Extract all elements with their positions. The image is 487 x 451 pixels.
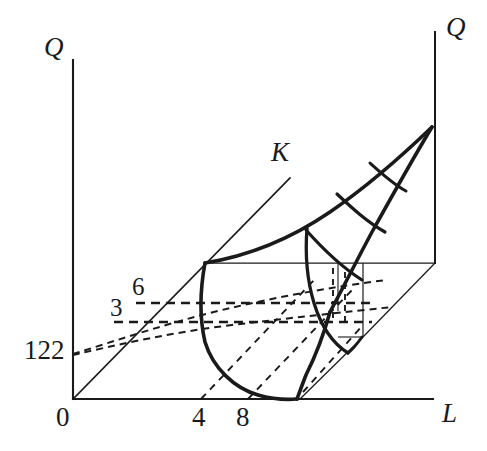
q-tick-label-3: 3 bbox=[110, 295, 123, 320]
reference-plane-group bbox=[205, 263, 435, 399]
l-axis-label: L bbox=[442, 400, 457, 427]
production-function-figure: Q Q K L 0 4 8 122 3 6 bbox=[0, 0, 487, 451]
k-axis bbox=[73, 178, 290, 399]
contour-arc-2 bbox=[337, 194, 385, 232]
contour-arc-1 bbox=[306, 230, 362, 280]
figure-canvas bbox=[0, 0, 487, 451]
l-tick-label-4: 4 bbox=[192, 404, 206, 431]
plane-right-edge bbox=[363, 263, 435, 337]
surface-lower-ridge bbox=[330, 127, 432, 312]
surface-left-boundary bbox=[201, 263, 297, 399]
origin-label: 0 bbox=[56, 404, 70, 431]
q-tick-label-122: 122 bbox=[24, 337, 65, 364]
k-axis-label: K bbox=[271, 139, 289, 166]
q-tick-label-6: 6 bbox=[132, 274, 145, 299]
dashed-ray-from-4 bbox=[201, 278, 316, 399]
q-axis-right-label: Q bbox=[446, 14, 466, 41]
l-tick-label-8: 8 bbox=[236, 404, 250, 431]
q-axis-left-label: Q bbox=[44, 34, 64, 61]
